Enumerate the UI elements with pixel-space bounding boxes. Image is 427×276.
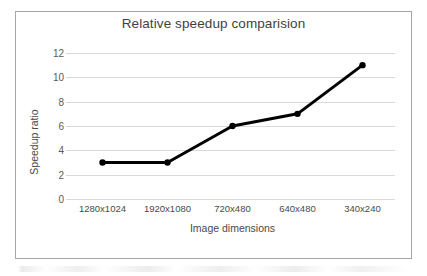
- y-axis-tick-label: 2: [34, 169, 64, 180]
- y-tick-mark: [66, 199, 70, 200]
- y-axis-tick-label: 10: [34, 72, 64, 83]
- y-axis-tick-label: 8: [34, 96, 64, 107]
- figure: Relative speedup comparision Speedup rat…: [0, 0, 427, 276]
- x-axis-tick-label: 340x240: [323, 203, 403, 214]
- data-point-marker: [229, 123, 235, 129]
- page-artifact: [8, 266, 419, 272]
- x-axis-title: Image dimensions: [70, 222, 395, 234]
- data-point-marker: [164, 159, 170, 165]
- y-axis-tick-label: 6: [34, 121, 64, 132]
- chart-title: Relative speedup comparision: [0, 16, 427, 31]
- gridline: [70, 199, 395, 200]
- data-point-marker: [359, 62, 365, 68]
- y-axis-tick-label: 0: [34, 194, 64, 205]
- data-point-marker: [294, 111, 300, 117]
- plot-area: [70, 53, 395, 199]
- data-point-marker: [99, 159, 105, 165]
- y-axis-tick-label: 12: [34, 48, 64, 59]
- series-markers: [99, 62, 365, 166]
- line-series: [70, 53, 395, 199]
- x-axis-tick-labels: 1280x10241920x1080720x480640x480340x240: [70, 203, 395, 217]
- y-axis-tick-label: 4: [34, 145, 64, 156]
- series-line: [103, 65, 363, 162]
- y-axis-tick-labels: 024681012: [34, 53, 64, 199]
